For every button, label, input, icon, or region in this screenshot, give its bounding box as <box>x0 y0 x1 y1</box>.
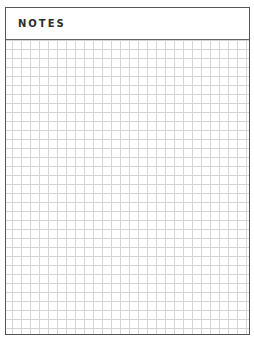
notes-header: NOTES <box>6 8 249 40</box>
page-title: NOTES <box>18 18 66 30</box>
notes-page: NOTES <box>5 7 250 335</box>
notes-grid-area[interactable] <box>6 40 249 334</box>
